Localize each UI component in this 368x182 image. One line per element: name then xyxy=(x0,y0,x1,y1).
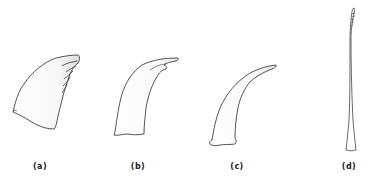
figure-drawing xyxy=(0,0,368,182)
panel-c-label: (c) xyxy=(230,162,244,171)
panel-d-label: (d) xyxy=(342,162,357,171)
panel-c-shape xyxy=(210,65,277,146)
panel-a-shape xyxy=(13,55,80,129)
panel-d-shape xyxy=(346,8,356,151)
panel-b-shape xyxy=(114,58,178,135)
panel-a-label: (a) xyxy=(33,162,47,171)
panel-b-label: (b) xyxy=(131,162,146,171)
